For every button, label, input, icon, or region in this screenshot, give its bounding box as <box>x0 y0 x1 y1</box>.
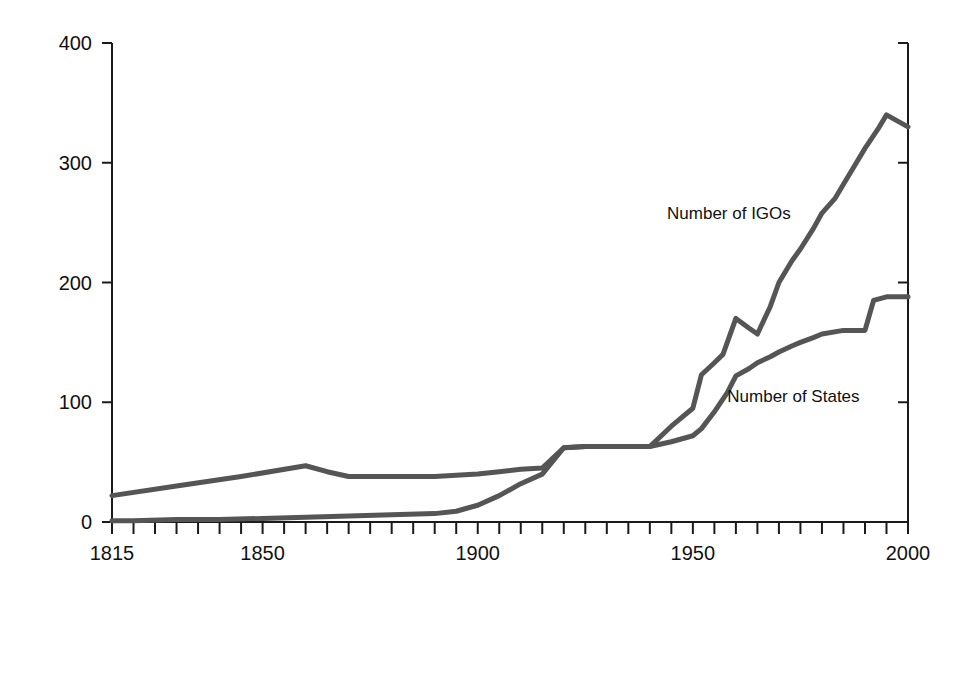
y-axis-tick-label: 100 <box>59 391 92 413</box>
series-line <box>112 115 908 521</box>
y-axis-tick-label: 0 <box>81 511 92 533</box>
x-axis-tick-label: 1850 <box>240 542 285 564</box>
y-axis-tick-label: 200 <box>59 272 92 294</box>
x-axis-tick-labels: 18151850190019502000 <box>90 542 931 564</box>
x-axis-tick-label: 2000 <box>886 542 931 564</box>
right-axis-ticks <box>898 43 908 402</box>
chart-series-labels: Number of IGOsNumber of States <box>667 204 860 406</box>
y-axis-ticks <box>102 43 112 522</box>
figure-root: 0100200300400 18151850190019502000 Numbe… <box>0 0 969 678</box>
series-annotation-label: Number of States <box>727 387 859 406</box>
chart-axes <box>112 43 908 522</box>
figure-caption-bar: FIGURE 7.1 States and IGOs in the World,… <box>0 565 969 678</box>
y-axis-tick-label: 300 <box>59 152 92 174</box>
y-axis-tick-labels: 0100200300400 <box>59 32 92 533</box>
chart-series-lines <box>112 115 908 521</box>
x-axis-tick-label: 1815 <box>90 542 135 564</box>
x-axis-tick-label: 1950 <box>671 542 716 564</box>
x-axis-tick-label: 1900 <box>455 542 500 564</box>
x-axis-ticks <box>112 522 908 534</box>
series-annotation-label: Number of IGOs <box>667 204 791 223</box>
y-axis-tick-label: 400 <box>59 32 92 54</box>
chart-plot-area: 0100200300400 18151850190019502000 Numbe… <box>0 0 969 565</box>
line-chart: 0100200300400 18151850190019502000 Numbe… <box>0 0 969 565</box>
